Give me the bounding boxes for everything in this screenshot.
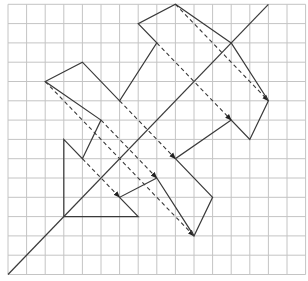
reflection-diagram xyxy=(0,0,308,281)
square-grid xyxy=(8,4,306,274)
